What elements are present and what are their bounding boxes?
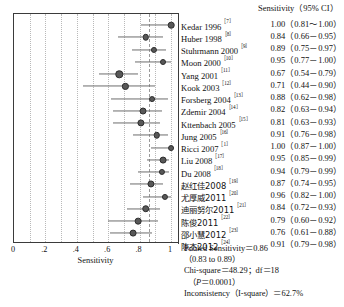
- study-label: 尤厚威2011［20］: [181, 189, 241, 201]
- x-axis-tick-label: .8: [136, 245, 142, 254]
- confidence-interval-line: [83, 86, 155, 87]
- forest-plot-figure: 0.2.4.6.81 Sensitivity Kedar 1996［7］Hube…: [0, 0, 344, 307]
- study-ci-row: [14, 19, 178, 31]
- study-reference: ［20］: [226, 190, 241, 196]
- study-reference: ［21］: [234, 202, 249, 208]
- study-ci-row: [14, 117, 178, 129]
- study-label: Forsberg 2004［13］: [181, 91, 246, 103]
- point-estimate-marker: [168, 145, 174, 151]
- chi-square-line: Chi-square＝48.29；df＝18: [184, 265, 303, 276]
- point-estimate-marker: [115, 70, 122, 77]
- plot-right-border: [178, 13, 179, 244]
- confidence-interval-line: [118, 37, 164, 38]
- confidence-interval-line: [132, 49, 167, 50]
- study-label: 赵红佳2008［19］: [181, 177, 241, 189]
- point-estimate-marker: [168, 22, 175, 29]
- point-estimate-marker: [154, 132, 160, 138]
- sensitivity-ci-value: 0.94（0.79－0.99）: [270, 165, 342, 177]
- x-axis-tick-label: 0: [11, 245, 15, 254]
- sensitivity-ci-value: 0.84（0.66－0.95）: [270, 30, 342, 42]
- sensitivity-ci-value: 1.00（0.81～1.00）: [270, 18, 342, 30]
- point-estimate-marker: [160, 156, 167, 163]
- study-reference: ［15］: [236, 116, 251, 122]
- study-ci-row: [14, 142, 178, 154]
- study-reference: ［12］: [219, 80, 234, 86]
- sensitivity-ci-value: 0.89（0.75－0.97）: [270, 42, 342, 54]
- point-estimate-marker: [159, 169, 165, 175]
- study-ci-row: [14, 105, 178, 117]
- study-reference: ［22］: [218, 214, 233, 220]
- study-ci-row: [14, 129, 178, 141]
- study-ci-row: [14, 154, 178, 166]
- sensitivity-ci-value: 0.95（0.77－1.00）: [270, 54, 342, 66]
- pooled-ci-line: （0.83 to 0.89）: [184, 254, 303, 265]
- sensitivity-ci-value: 0.76（0.61－0.88）: [270, 226, 342, 238]
- point-estimate-marker: [149, 96, 155, 102]
- study-reference: ［13］: [231, 92, 246, 98]
- sensitivity-ci-value: 0.95（0.85－0.99）: [270, 152, 342, 164]
- study-label: 陈俊2011［22］: [181, 214, 233, 226]
- x-axis-tick-label: .2: [41, 245, 47, 254]
- sensitivity-ci-value: 0.87（0.74－0.95）: [270, 177, 342, 189]
- sensitivity-ci-value: 0.91（0.76－0.98）: [270, 128, 342, 140]
- study-ci-row: [14, 56, 178, 68]
- study-reference: ［17］: [212, 153, 227, 159]
- study-reference: ［10］: [221, 55, 236, 61]
- study-reference: ［18］: [211, 165, 226, 171]
- confidence-interval-line: [111, 98, 168, 99]
- study-reference: ［11］: [218, 67, 233, 73]
- sensitivity-ci-value: 0.81（0.63－0.93）: [270, 116, 342, 128]
- study-ci-row: [14, 93, 178, 105]
- study-label: Liu 2008［17］: [181, 152, 227, 164]
- sensitivity-ci-value: 0.79（0.60－0.92）: [270, 214, 342, 226]
- confidence-interval-line: [113, 123, 160, 124]
- point-estimate-marker: [138, 120, 145, 127]
- point-estimate-marker: [151, 47, 157, 53]
- confidence-interval-line: [133, 135, 168, 136]
- x-axis-tick-label: 1: [168, 245, 172, 254]
- confidence-interval-line: [113, 110, 162, 111]
- study-ci-row: [14, 203, 178, 215]
- study-label: 邵小慧2012［23］: [181, 226, 241, 238]
- plot-area: [13, 13, 178, 243]
- summary-statistics: Pooled Sensitivity＝0.86 （0.83 to 0.89） C…: [184, 243, 303, 299]
- p-value-line: （P＝0.0001）: [184, 277, 303, 288]
- study-reference: ［1］: [218, 141, 230, 147]
- study-ci-row: [14, 31, 178, 43]
- study-reference: ［9］: [238, 43, 250, 49]
- point-estimate-marker: [142, 205, 150, 213]
- pooled-sensitivity-line: Pooled Sensitivity＝0.86: [184, 243, 303, 254]
- study-ci-row: [14, 191, 178, 203]
- point-estimate-marker: [147, 181, 154, 188]
- study-label: 迪丽努尔2011［21］: [181, 201, 249, 213]
- study-label: Kedar 1996［7］: [181, 18, 234, 30]
- p-rest: ＝0.0001）: [201, 278, 240, 287]
- sensitivity-ci-value: 0.96（0.82－1.00）: [270, 189, 342, 201]
- point-estimate-marker: [135, 218, 142, 225]
- p-prefix: （: [188, 278, 196, 287]
- x-axis-tick-label: .6: [104, 245, 110, 254]
- sensitivity-ci-value: 0.84（0.72－0.93）: [270, 201, 342, 213]
- study-ci-row: [14, 227, 178, 239]
- point-estimate-marker: [160, 59, 166, 65]
- study-reference: ［8］: [222, 31, 234, 37]
- confidence-interval-line: [108, 221, 158, 222]
- point-estimate-marker: [130, 230, 137, 237]
- sensitivity-ci-value: 0.82（0.63－0.94）: [270, 103, 342, 115]
- study-reference: ［19］: [226, 178, 241, 184]
- confidence-interval-line: [141, 25, 171, 26]
- study-ci-row: [14, 178, 178, 190]
- study-ci-row: [14, 166, 178, 178]
- sensitivity-ci-value: 0.71（0.44－0.90）: [270, 79, 342, 91]
- study-label: Ricci 2007［1］: [181, 140, 231, 152]
- sensitivity-ci-value: 1.00（0.87－1.00）: [270, 140, 342, 152]
- study-ci-row: [14, 68, 178, 80]
- point-estimate-marker: [122, 83, 128, 89]
- sensitivity-ci-value: 0.67（0.54－0.79）: [270, 67, 342, 79]
- study-reference: ［7］: [221, 18, 233, 24]
- column-header-sensitivity: Sensitivity（95% CI）: [258, 1, 339, 13]
- study-reference: ［23］: [226, 227, 241, 233]
- study-ci-row: [14, 44, 178, 56]
- study-label: Kook 2003［12］: [181, 79, 234, 91]
- study-label: Stuhrmann 2000［9］: [181, 42, 250, 54]
